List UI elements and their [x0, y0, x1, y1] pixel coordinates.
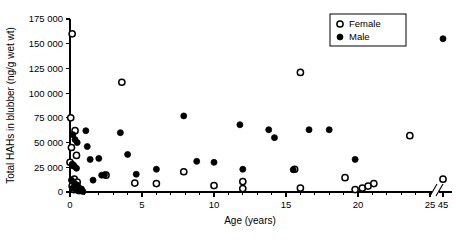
data-point-female	[297, 69, 303, 75]
data-point-female	[440, 176, 446, 182]
data-point-male	[181, 113, 187, 119]
data-point-female	[73, 152, 79, 158]
y-tick-label: 0	[58, 186, 63, 197]
data-point-female	[181, 169, 187, 175]
data-point-female	[132, 180, 138, 186]
data-point-female	[240, 179, 246, 185]
data-point-female	[297, 185, 303, 191]
x-tick-label: 10	[209, 199, 220, 210]
data-point-female	[153, 180, 159, 186]
data-point-male	[84, 144, 90, 150]
data-point-male	[266, 127, 272, 133]
data-point-male	[194, 158, 200, 164]
data-point-male	[83, 128, 89, 134]
data-point-female	[352, 186, 358, 192]
data-point-male	[240, 166, 246, 172]
y-axis-title: Total HAHs in blubber (ng/g wet wt)	[5, 27, 16, 184]
data-point-male	[271, 135, 277, 141]
legend-marker-female	[337, 21, 343, 27]
legend-label: Female	[349, 18, 381, 29]
x-axis-title: Age (years)	[224, 215, 276, 226]
data-point-male	[237, 122, 243, 128]
data-point-male	[96, 155, 102, 161]
data-point-male	[326, 127, 332, 133]
data-point-female	[342, 175, 348, 181]
chart-canvas: 025 00050 00075 000100 000125 000150 000…	[0, 0, 456, 243]
data-point-female	[68, 144, 74, 150]
data-point-female	[211, 182, 217, 188]
data-point-female	[119, 79, 125, 85]
y-tick-label: 50 000	[34, 137, 63, 148]
data-point-male	[440, 36, 446, 42]
x-tick-label: 45	[438, 199, 449, 210]
data-point-male	[125, 151, 131, 157]
y-tick-label: 150 000	[29, 38, 63, 49]
x-tick-label: 0	[67, 199, 72, 210]
scatter-plot-figure: 025 00050 00075 000100 000125 000150 000…	[0, 0, 456, 243]
data-point-male	[306, 127, 312, 133]
data-point-male	[80, 189, 86, 195]
x-tick-label: 15	[281, 199, 292, 210]
legend-marker-male	[337, 34, 343, 40]
x-tick-label: 25	[425, 199, 436, 210]
axis-break-slash	[430, 184, 437, 196]
x-tick-label: 5	[139, 199, 144, 210]
data-point-male	[90, 177, 96, 183]
data-point-male	[153, 166, 159, 172]
y-tick-label: 75 000	[34, 112, 63, 123]
x-tick-label: 20	[353, 199, 364, 210]
data-point-male	[87, 156, 93, 162]
data-point-male	[211, 159, 217, 165]
data-point-female	[371, 180, 377, 186]
legend-label: Male	[349, 31, 370, 42]
axis-break-slash	[436, 184, 443, 196]
data-point-female	[69, 31, 75, 37]
data-point-female	[407, 133, 413, 139]
y-tick-label: 175 000	[29, 13, 63, 24]
data-point-male	[133, 171, 139, 177]
data-point-female	[240, 185, 246, 191]
data-point-female	[68, 115, 74, 121]
y-tick-label: 100 000	[29, 88, 63, 99]
data-point-male	[352, 156, 358, 162]
data-point-male	[102, 172, 108, 178]
data-point-male	[290, 167, 296, 173]
data-point-male	[73, 165, 79, 171]
data-point-male	[74, 140, 80, 146]
y-tick-label: 125 000	[29, 63, 63, 74]
data-point-male	[117, 130, 123, 136]
y-tick-label: 25 000	[34, 162, 63, 173]
